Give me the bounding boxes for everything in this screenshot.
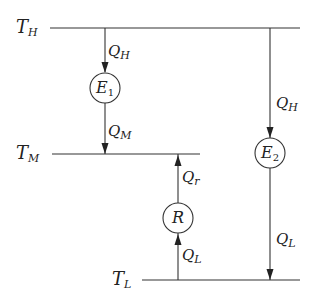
arrowhead-qm-e1 <box>102 143 109 154</box>
flow-label-qh-e2: QH <box>276 96 298 113</box>
diagram-canvas: TH TM TL E1 E2 R QH QM Qr QL QH QL <box>0 0 316 308</box>
arrowhead-qh-e1 <box>102 62 109 73</box>
flow-label-qh-e1: QH <box>108 44 130 61</box>
device-label-e1: E1 <box>90 80 120 98</box>
flow-label-ql-e2: QL <box>276 232 296 249</box>
arrowhead-ql-e2 <box>267 269 274 280</box>
arrowhead-ql-r <box>175 234 182 245</box>
device-label-e2: E2 <box>255 145 285 163</box>
flow-label-ql-r: QL <box>182 248 202 265</box>
flow-label-qm-e1: QM <box>108 124 132 141</box>
label-tm: TM <box>16 144 39 164</box>
flow-label-qr: Qr <box>182 170 200 187</box>
device-label-r: R <box>163 210 193 226</box>
label-tl: TL <box>112 270 131 290</box>
label-th: TH <box>16 18 38 38</box>
arrowhead-qh-e2 <box>267 127 274 138</box>
arrowhead-qr <box>175 155 182 166</box>
